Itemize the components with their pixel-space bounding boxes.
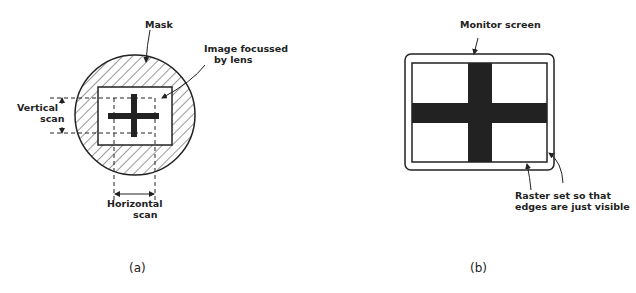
diagram-canvas: Mask Image focussed by lens Vertical sca… [0,0,636,293]
monitor-leader-arrow [474,38,478,54]
panel-a: Mask Image focussed by lens Vertical sca… [17,19,288,275]
mask-label: Mask [145,19,174,30]
image-label-line1: Image focussed [204,43,288,54]
horizontal-scan-label-line1: Horizontal [107,198,162,209]
image-label-line2: by lens [214,54,253,65]
vertical-scan-label-line2: scan [40,113,65,124]
caption-a: (a) [129,261,146,275]
horizontal-scan-label-line2: scan [133,209,158,220]
vertical-scan-label-line1: Vertical [17,102,58,113]
panel-b: Monitor screen Raster set so that edges … [405,19,630,275]
caption-b: (b) [470,261,487,275]
raster-label-line2: edges are just visible [515,201,630,212]
raster-label-line1: Raster set so that [515,190,612,201]
monitor-screen-label: Monitor screen [460,19,541,30]
